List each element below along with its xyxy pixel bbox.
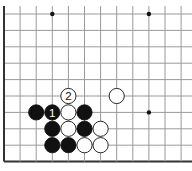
- white-stone-icon: [93, 121, 108, 136]
- white-stone-icon: [61, 121, 76, 136]
- white-stone: [93, 138, 108, 153]
- stones-layer: 21: [29, 88, 125, 152]
- move-number-label: 2: [65, 90, 71, 102]
- move-number-label: 1: [49, 107, 55, 119]
- white-stone-icon: [61, 105, 76, 120]
- white-stone: 2: [61, 88, 76, 103]
- go-board: 21: [0, 0, 192, 171]
- white-stone: [61, 105, 76, 120]
- black-stone-icon: [77, 105, 92, 120]
- white-stone: [109, 88, 124, 103]
- black-stone: [61, 138, 76, 153]
- star-point-icon: [50, 12, 54, 16]
- white-stone-icon: [77, 138, 92, 153]
- white-stone-icon: [109, 88, 124, 103]
- black-stone: [77, 121, 92, 136]
- black-stone-icon: [61, 138, 76, 153]
- black-stone-icon: [45, 121, 60, 136]
- black-stone: 1: [45, 105, 60, 120]
- white-stone: [77, 138, 92, 153]
- star-point-icon: [147, 12, 151, 16]
- black-stone-icon: [29, 105, 44, 120]
- white-stone-icon: [93, 138, 108, 153]
- black-stone-icon: [77, 121, 92, 136]
- black-stone-icon: [45, 138, 60, 153]
- black-stone: [29, 105, 44, 120]
- white-stone: [93, 121, 108, 136]
- star-point-icon: [147, 110, 151, 114]
- black-stone: [45, 121, 60, 136]
- white-stone: [61, 121, 76, 136]
- black-stone: [45, 138, 60, 153]
- black-stone: [77, 105, 92, 120]
